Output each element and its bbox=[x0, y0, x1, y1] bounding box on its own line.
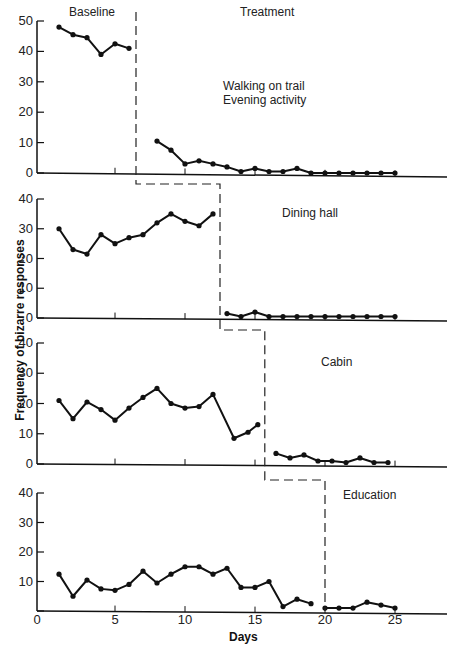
treatment-data-point bbox=[322, 314, 327, 319]
treatment-data-point bbox=[392, 314, 397, 319]
treatment-data-point bbox=[336, 314, 341, 319]
x-tick-label: 20 bbox=[318, 612, 332, 627]
x-tick-label: 10 bbox=[178, 612, 192, 627]
baseline-data-point bbox=[112, 41, 117, 46]
baseline-data-point bbox=[98, 407, 103, 412]
baseline-data-point bbox=[255, 422, 260, 427]
treatment-data-point bbox=[301, 452, 306, 457]
baseline-data-point bbox=[308, 601, 313, 606]
baseline-data-point bbox=[98, 232, 103, 237]
x-tick-label: 15 bbox=[248, 612, 262, 627]
treatment-data-point bbox=[287, 455, 292, 460]
baseline-data-point bbox=[210, 392, 215, 397]
baseline-data-point bbox=[231, 436, 236, 441]
treatment-data-point bbox=[252, 309, 257, 314]
y-tick-label: 20 bbox=[19, 104, 33, 119]
baseline-data-point bbox=[196, 223, 201, 228]
y-tick-label: 40 bbox=[19, 485, 33, 500]
y-tick-label: 40 bbox=[19, 191, 33, 206]
treatment-data-point bbox=[238, 314, 243, 319]
baseline-data-point bbox=[98, 52, 103, 57]
treatment-data-point bbox=[357, 455, 362, 460]
treatment-data-point bbox=[308, 314, 313, 319]
baseline-data-point bbox=[168, 211, 173, 216]
y-tick-label: 20 bbox=[19, 544, 33, 559]
treatment-data-point bbox=[343, 460, 348, 465]
baseline-data-point bbox=[140, 395, 145, 400]
treatment-data-point bbox=[308, 170, 313, 175]
treatment-data-point bbox=[294, 314, 299, 319]
treatment-data-point bbox=[315, 458, 320, 463]
baseline-data-point bbox=[196, 404, 201, 409]
treatment-data-point bbox=[378, 314, 383, 319]
treatment-data-point bbox=[210, 161, 215, 166]
y-tick-label: 30 bbox=[19, 365, 33, 380]
treatment-data-point bbox=[266, 169, 271, 174]
treatment-data-point bbox=[350, 605, 355, 610]
baseline-data-point bbox=[84, 577, 89, 582]
treatment-series-line bbox=[157, 141, 395, 173]
treatment-data-point bbox=[336, 170, 341, 175]
baseline-data-point bbox=[245, 430, 250, 435]
baseline-data-point bbox=[252, 585, 257, 590]
baseline-data-point bbox=[182, 564, 187, 569]
baseline-data-point bbox=[70, 416, 75, 421]
baseline-data-point bbox=[112, 588, 117, 593]
phase-change-line bbox=[136, 12, 325, 611]
baseline-data-point bbox=[266, 579, 271, 584]
baseline-data-point bbox=[182, 405, 187, 410]
baseline-data-point bbox=[140, 232, 145, 237]
y-tick-label: 20 bbox=[19, 251, 33, 266]
baseline-series-line bbox=[59, 567, 311, 607]
y-tick-label: 40 bbox=[19, 43, 33, 58]
treatment-data-point bbox=[378, 170, 383, 175]
baseline-data-point bbox=[112, 241, 117, 246]
treatment-data-point bbox=[252, 166, 257, 171]
treatment-data-point bbox=[392, 170, 397, 175]
y-tick-label: 20 bbox=[19, 396, 33, 411]
x-axis-line bbox=[37, 611, 447, 614]
treatment-data-point bbox=[329, 458, 334, 463]
y-tick-label: 30 bbox=[19, 221, 33, 236]
baseline-data-point bbox=[224, 566, 229, 571]
baseline-data-point bbox=[140, 569, 145, 574]
baseline-data-point bbox=[238, 585, 243, 590]
treatment-data-point bbox=[182, 161, 187, 166]
baseline-data-point bbox=[154, 386, 159, 391]
treatment-data-point bbox=[280, 169, 285, 174]
treatment-data-point bbox=[154, 138, 159, 143]
baseline-data-point bbox=[84, 35, 89, 40]
treatment-data-point bbox=[224, 311, 229, 316]
baseline-data-point bbox=[56, 24, 61, 29]
baseline-data-point bbox=[126, 235, 131, 240]
treatment-data-point bbox=[224, 164, 229, 169]
treatment-data-point bbox=[238, 169, 243, 174]
multiple-baseline-chart: 0102030405001020304001020304010203040051… bbox=[0, 0, 455, 648]
baseline-data-point bbox=[280, 604, 285, 609]
baseline-data-point bbox=[196, 564, 201, 569]
baseline-data-point bbox=[168, 401, 173, 406]
baseline-data-point bbox=[84, 399, 89, 404]
baseline-data-point bbox=[98, 586, 103, 591]
treatment-data-point bbox=[364, 314, 369, 319]
baseline-data-point bbox=[168, 572, 173, 577]
treatment-data-point bbox=[364, 170, 369, 175]
treatment-data-point bbox=[168, 148, 173, 153]
baseline-data-point bbox=[210, 572, 215, 577]
treatment-data-point bbox=[280, 314, 285, 319]
treatment-data-point bbox=[273, 451, 278, 456]
baseline-data-point bbox=[70, 594, 75, 599]
y-tick-label: 10 bbox=[19, 426, 33, 441]
treatment-data-point bbox=[294, 166, 299, 171]
baseline-data-point bbox=[126, 582, 131, 587]
baseline-data-point bbox=[70, 247, 75, 252]
y-tick-label: 0 bbox=[26, 310, 33, 325]
baseline-data-point bbox=[56, 226, 61, 231]
y-tick-label: 10 bbox=[19, 280, 33, 295]
x-tick-label: 0 bbox=[33, 612, 40, 627]
x-tick-label: 25 bbox=[388, 612, 402, 627]
y-tick-label: 0 bbox=[26, 456, 33, 471]
treatment-data-point bbox=[196, 158, 201, 163]
baseline-data-point bbox=[126, 46, 131, 51]
baseline-data-point bbox=[210, 211, 215, 216]
